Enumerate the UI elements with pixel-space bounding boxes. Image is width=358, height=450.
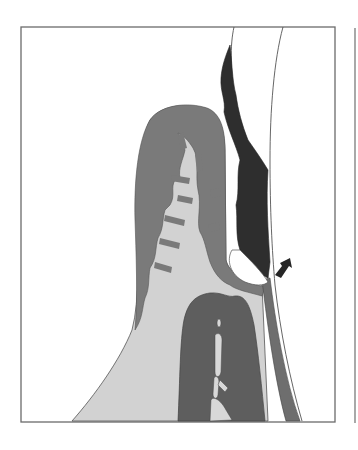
periodontal-diagram [0,0,358,450]
